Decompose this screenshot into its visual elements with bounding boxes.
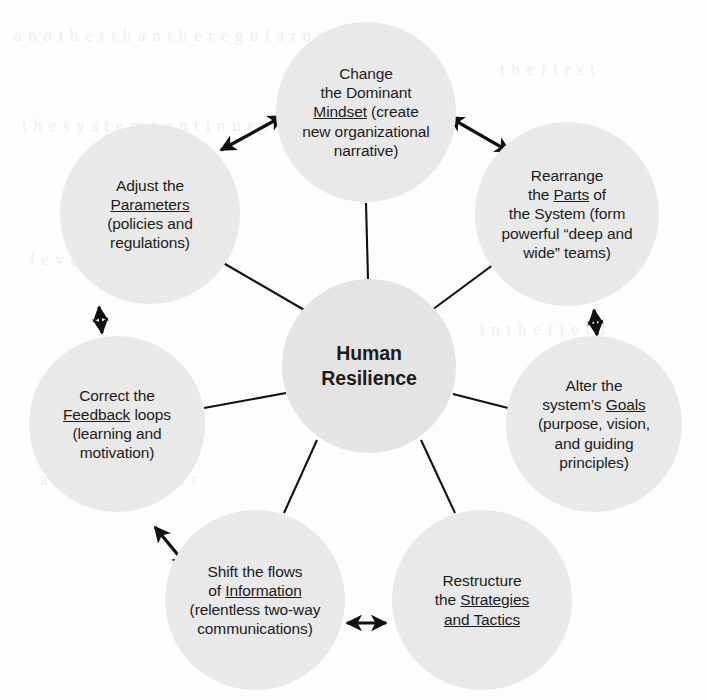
diagram-canvas: a n o t h e r t h a n t h e r e g u l a … [0, 0, 707, 700]
node-parameters[interactable]: Adjust theParameters(policies andregulat… [60, 124, 240, 304]
ring-arrow-feedback-parameters [99, 307, 102, 333]
node-information-label: Shift the flowsof Information(relentless… [182, 562, 329, 639]
spoke-center-to-goals [453, 394, 508, 408]
ring-arrow-mindset-parts [449, 117, 510, 152]
spoke-center-to-parameters [213, 257, 306, 311]
node-parts[interactable]: Rearrangethe Parts ofthe System (formpow… [475, 122, 659, 306]
node-goals[interactable]: Alter thesystem’s Goals(purpose, vision,… [506, 336, 682, 512]
node-goals-label: Alter thesystem’s Goals(purpose, vision,… [530, 376, 658, 472]
node-human-resilience[interactable]: HumanResilience [282, 279, 456, 453]
node-feedback-label: Correct theFeedback loops(learning andmo… [55, 386, 179, 463]
ring-arrow-parts-goals [594, 310, 597, 335]
spoke-center-to-strategies [421, 440, 455, 513]
spoke-center-to-feedback [204, 393, 286, 408]
node-feedback[interactable]: Correct theFeedback loops(learning andmo… [29, 336, 205, 512]
ring-arrow-parameters-mindset [221, 116, 283, 150]
node-human-resilience-label: HumanResilience [313, 341, 424, 392]
node-strategies-label: Restructurethe Strategies and Tactics [427, 571, 537, 629]
node-strategies[interactable]: Restructurethe Strategies and Tactics [392, 510, 572, 690]
node-parts-label: Rearrangethe Parts ofthe System (formpow… [494, 166, 641, 262]
node-mindset-label: Changethe DominantMindset (createnew org… [294, 64, 437, 160]
node-information[interactable]: Shift the flowsof Information(relentless… [165, 510, 345, 690]
node-parameters-label: Adjust theParameters(policies andregulat… [99, 176, 201, 253]
spoke-center-to-mindset [366, 203, 368, 279]
node-mindset[interactable]: Changethe DominantMindset (createnew org… [276, 22, 456, 202]
spoke-center-to-information [284, 440, 317, 513]
